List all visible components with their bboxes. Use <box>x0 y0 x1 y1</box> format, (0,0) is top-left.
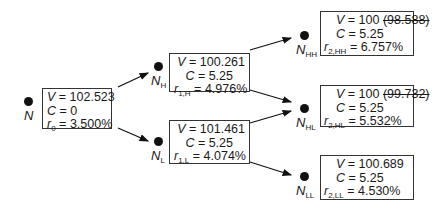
edge-NL-NHL <box>250 111 291 123</box>
edge-NH-NHH <box>250 38 291 50</box>
eq: = <box>186 55 200 69</box>
eq: = <box>344 13 358 27</box>
value-r: 3.500% <box>70 117 112 131</box>
node-label-text: N <box>296 42 305 57</box>
edge-NL-NLL <box>250 162 291 175</box>
eq: = <box>344 184 358 198</box>
node-label-NHL: NHL <box>296 116 316 134</box>
value-r: 4.976% <box>205 82 247 96</box>
node-label-sub: L <box>160 156 164 165</box>
value-V: 100 <box>359 87 380 101</box>
edge-NH-NHL <box>250 90 291 102</box>
eq: = <box>56 104 70 118</box>
node-label-sub: LL <box>305 191 314 200</box>
v-symbol: V <box>177 122 185 136</box>
value-V-unadjusted: (98.588) <box>383 13 430 27</box>
value-C: 5.25 <box>359 171 383 185</box>
coupon-row: C = 5.25 <box>324 28 409 42</box>
node-box-NHH: V = 100 (98.588) C = 5.25 r2,HH = 6.757% <box>320 11 414 56</box>
eq: = <box>346 40 360 54</box>
rate-row: r2,HL = 5.532% <box>324 115 409 133</box>
value-row: V = 100 (99.732) <box>324 88 409 102</box>
eq: = <box>345 114 359 128</box>
eq: = <box>345 27 359 41</box>
eq: = <box>344 87 358 101</box>
node-dot-NLL <box>300 172 309 181</box>
coupon-row: C = 5.25 <box>324 172 409 186</box>
r-sub: 2,LL <box>328 191 344 200</box>
rate-row: r1,H = 4.976% <box>174 83 245 101</box>
value-r: 4.530% <box>358 184 400 198</box>
node-label-NH: NH <box>151 74 166 92</box>
value-r: 4.074% <box>204 149 246 163</box>
value-C: 5.25 <box>359 101 383 115</box>
value-row: V = 101.461 <box>174 123 245 137</box>
value-V-unadjusted: (99.732) <box>383 87 430 101</box>
edge-N-NH <box>118 73 148 87</box>
eq: = <box>56 117 70 131</box>
node-dot-NL <box>154 137 163 146</box>
value-C: 0 <box>70 104 77 118</box>
coupon-row: C = 5.25 <box>324 102 409 116</box>
c-symbol: C <box>336 171 345 185</box>
eq: = <box>345 101 359 115</box>
coupon-row: C = 0 <box>47 105 107 119</box>
node-label-text: N <box>151 148 160 163</box>
node-label-sub: HH <box>305 50 317 59</box>
value-row: V = 100.689 <box>324 158 409 172</box>
node-label-NL: NL <box>151 149 165 167</box>
node-label-NLL: NLL <box>296 184 314 202</box>
r-sub: 1,H <box>178 89 190 98</box>
value-row: V = 100.261 <box>174 56 245 70</box>
rate-row: r0 = 3.500% <box>47 118 107 136</box>
rate-row: r2,HH = 6.757% <box>324 41 409 59</box>
value-V: 102.523 <box>70 90 115 104</box>
eq: = <box>345 171 359 185</box>
node-dot-NHL <box>300 104 309 113</box>
node-dot-NH <box>154 62 163 71</box>
node-label-text: N <box>151 73 160 88</box>
value-r: 5.532% <box>359 114 401 128</box>
r-sub: 2,HL <box>328 121 345 130</box>
node-box-NL: V = 101.461 C = 5.25 r1,L = 4.074% <box>169 120 250 164</box>
coupon-row: C = 5.25 <box>174 137 245 151</box>
node-dot-NHH <box>300 31 309 40</box>
rate-row: r2,LL = 4.530% <box>324 185 409 203</box>
eq: = <box>194 69 208 83</box>
node-box-NHL: V = 100 (99.732) C = 5.25 r2,HL = 5.532% <box>320 85 414 127</box>
value-row: V = 100 (98.588) <box>324 14 409 28</box>
value-r: 6.757% <box>361 40 403 54</box>
v-symbol: V <box>177 55 185 69</box>
value-row: V = 102.523 <box>47 91 107 105</box>
node-label-N: N <box>24 109 33 127</box>
eq: = <box>189 149 203 163</box>
value-C: 5.25 <box>209 69 233 83</box>
c-symbol: C <box>336 27 345 41</box>
rate-row: r1,L = 4.074% <box>174 150 245 168</box>
node-label-text: N <box>296 183 305 198</box>
eq: = <box>186 122 200 136</box>
value-C: 5.25 <box>359 27 383 41</box>
eq: = <box>191 82 205 96</box>
eq: = <box>194 136 208 150</box>
r-sub: 2,HH <box>328 47 346 56</box>
node-label-sub: HL <box>305 123 315 132</box>
edge-N-NL <box>118 128 148 141</box>
node-label-NHH: NHH <box>296 43 317 61</box>
c-symbol: C <box>47 104 56 118</box>
node-box-NLL: V = 100.689 C = 5.25 r2,LL = 4.530% <box>320 155 414 200</box>
value-V: 100 <box>359 13 380 27</box>
value-V: 100.261 <box>200 55 245 69</box>
node-label-sub: H <box>160 81 166 90</box>
value-V: 101.461 <box>200 122 245 136</box>
eq: = <box>55 90 69 104</box>
eq: = <box>344 157 358 171</box>
value-C: 5.25 <box>209 136 233 150</box>
node-dot-N <box>24 97 33 106</box>
value-V: 100.689 <box>359 157 404 171</box>
c-symbol: C <box>336 101 345 115</box>
node-label-text: N <box>296 115 305 130</box>
node-box-NH: V = 100.261 C = 5.25 r1,H = 4.976% <box>169 53 250 92</box>
coupon-row: C = 5.25 <box>174 70 245 84</box>
node-label-text: N <box>24 108 33 123</box>
